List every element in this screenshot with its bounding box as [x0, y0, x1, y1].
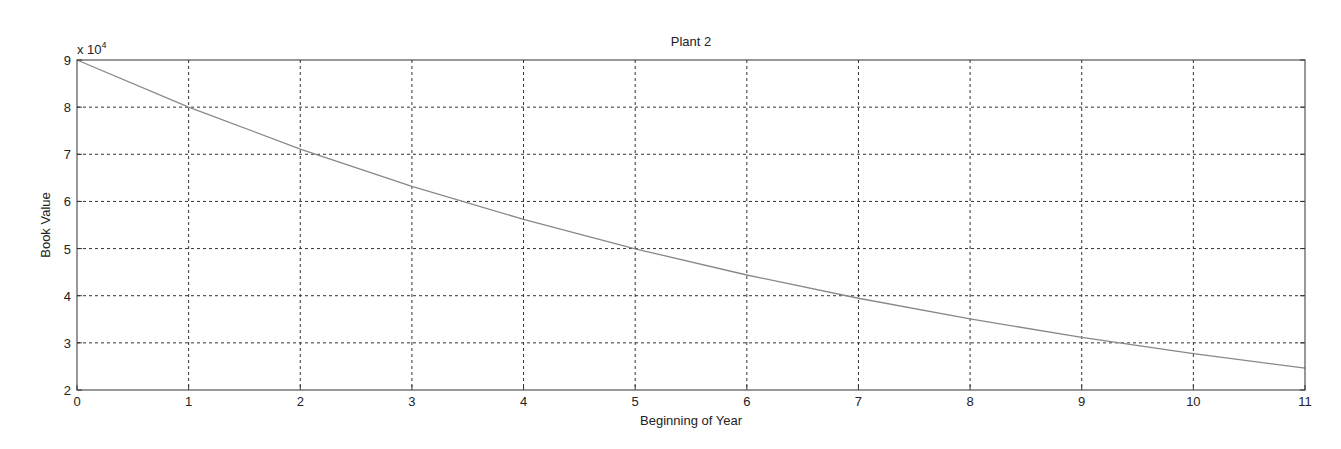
plot-area-frame [77, 60, 1305, 390]
x-tick-label: 3 [408, 394, 415, 409]
axis-ticks: 0123456789101123456789 [64, 53, 1312, 409]
x-tick-label: 9 [1078, 394, 1085, 409]
x-tick-label: 8 [966, 394, 973, 409]
y-tick-label: 9 [64, 53, 71, 68]
y-tick-label: 4 [64, 289, 71, 304]
grid-lines [77, 60, 1305, 390]
x-tick-label: 4 [520, 394, 527, 409]
y-tick-label: 3 [64, 336, 71, 351]
x-tick-label: 2 [297, 394, 304, 409]
x-tick-label: 1 [185, 394, 192, 409]
x-tick-label: 6 [743, 394, 750, 409]
line-chart: Plant 2 0123456789101123456789 x 104 Beg… [0, 0, 1341, 449]
x-tick-label: 10 [1186, 394, 1200, 409]
x-tick-label: 0 [73, 394, 80, 409]
x-tick-label: 7 [855, 394, 862, 409]
y-tick-label: 8 [64, 100, 71, 115]
book-value-line [77, 60, 1305, 368]
y-axis-label: Book Value [38, 192, 53, 258]
y-exponent-label: x 104 [77, 40, 107, 57]
y-tick-label: 2 [64, 383, 71, 398]
x-tick-label: 11 [1298, 394, 1312, 409]
x-axis-label: Beginning of Year [640, 413, 743, 428]
y-tick-label: 6 [64, 194, 71, 209]
chart-title: Plant 2 [671, 34, 711, 49]
y-tick-label: 7 [64, 147, 71, 162]
y-tick-label: 5 [64, 242, 71, 257]
x-tick-label: 5 [632, 394, 639, 409]
